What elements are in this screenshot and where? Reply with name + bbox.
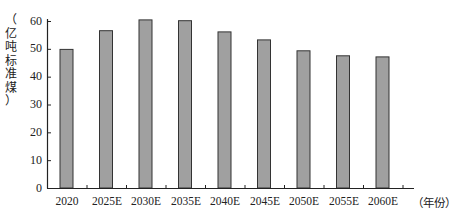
x-tick-label: 2040E xyxy=(203,195,247,207)
bars-group xyxy=(60,20,389,188)
bar-2030E xyxy=(139,20,152,188)
bar-2045E xyxy=(258,40,271,188)
x-tick-label: 2020 xyxy=(45,195,89,207)
bar-2040E xyxy=(218,32,231,188)
bar-2055E xyxy=(337,56,350,188)
bar-chart: （ 亿 吨 标 准 煤 ） 60 50 40 30 20 10 0 2020 2… xyxy=(0,0,455,217)
x-axis-unit-label: （年份） xyxy=(412,194,455,210)
bar-2035E xyxy=(179,21,192,188)
bar-2050E xyxy=(297,51,310,188)
bar-2025E xyxy=(100,31,113,188)
x-tick-label: 2055E xyxy=(322,195,366,207)
x-tick-label: 2025E xyxy=(85,195,129,207)
x-tick-label: 2035E xyxy=(164,195,208,207)
plot-area xyxy=(0,0,455,217)
x-tick-label: 2030E xyxy=(124,195,168,207)
x-tick-label: 2060E xyxy=(361,195,405,207)
bar-2020 xyxy=(60,49,73,188)
bar-2060E xyxy=(376,57,389,188)
x-tick-label: 2050E xyxy=(282,195,326,207)
x-tick-label: 2045E xyxy=(243,195,287,207)
